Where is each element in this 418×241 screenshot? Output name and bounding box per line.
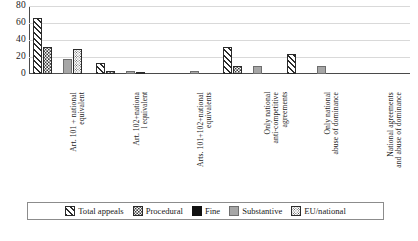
y-tick-0: 0 — [21, 69, 26, 79]
x-category: Only national abuse of dominance — [283, 92, 347, 192]
legend-item-procedural: Procedural — [133, 206, 183, 216]
bar-eu-national — [73, 49, 82, 75]
bar-group-bars — [93, 6, 157, 74]
y-axis: 0 20 40 60 80 — [0, 6, 28, 74]
x-category-label: Arts. 101+102+national equivalents — [196, 92, 213, 167]
bar-groups — [29, 6, 410, 74]
legend-item-total-appeals: Total appeals — [65, 206, 123, 216]
y-tick-80: 80 — [16, 1, 26, 11]
legend-item-substantive: Substantive — [229, 206, 282, 216]
x-category-label: National agreements and abuse of dominan… — [387, 92, 404, 168]
legend-label-fine: Fine — [205, 207, 220, 216]
chart-legend: Total appeals Procedural Fine Substantiv… — [27, 202, 384, 220]
bar-eu-national — [136, 72, 145, 74]
bar-group — [220, 6, 284, 74]
x-category: National agreements and abuse of dominan… — [347, 92, 411, 192]
x-category: Only national anti-competitive agreement… — [220, 92, 284, 192]
x-axis-category-labels: Art. 101 + national equivalentArt. 102+n… — [29, 92, 410, 192]
legend-swatch-eu-national-icon — [291, 206, 301, 216]
bar-substantive — [317, 66, 326, 75]
legend-label-substantive: Substantive — [242, 207, 282, 216]
bar-substantive — [253, 66, 262, 75]
bar-procedural — [43, 47, 52, 74]
x-category: Art. 102+nationa l equivalent — [93, 92, 157, 192]
bar-group-bars — [29, 6, 93, 74]
bar-group — [347, 6, 411, 74]
legend-label-procedural: Procedural — [146, 207, 183, 216]
bar-group — [156, 6, 220, 74]
bar-group-bars — [220, 6, 284, 74]
y-tick-20: 20 — [16, 52, 26, 62]
bar-group — [283, 6, 347, 74]
bar-total-appeals — [223, 47, 232, 74]
legend-swatch-substantive-icon — [229, 206, 239, 216]
x-category-label: Only national abuse of dominance — [323, 92, 340, 155]
x-category: Art. 101 + national equivalent — [29, 92, 93, 192]
bar-procedural — [106, 71, 115, 74]
bar-substantive — [190, 71, 199, 74]
x-category: Arts. 101+102+national equivalents — [156, 92, 220, 192]
y-tick-60: 60 — [16, 18, 26, 28]
legend-item-eu-national: EU/national — [291, 206, 346, 216]
bar-chart: 0 20 40 60 80 Art. 101 + national equiva… — [0, 0, 418, 241]
legend-swatch-procedural-icon — [133, 206, 143, 216]
bar-substantive — [63, 59, 72, 74]
legend-item-fine: Fine — [192, 206, 220, 216]
plot-area: 0 20 40 60 80 — [0, 6, 418, 90]
x-category-label: Art. 102+nationa l equivalent — [133, 92, 150, 146]
bar-group-bars — [347, 6, 411, 74]
bar-procedural — [233, 66, 242, 75]
bar-group — [93, 6, 157, 74]
bar-total-appeals — [33, 18, 42, 74]
legend-swatch-fine-icon — [192, 206, 202, 216]
legend-swatch-total-appeals-icon — [65, 206, 75, 216]
bar-group-bars — [156, 6, 220, 74]
y-tick-40: 40 — [16, 35, 26, 45]
x-category-label: Art. 101 + national equivalent — [69, 92, 86, 152]
legend-label-eu-national: EU/national — [304, 207, 346, 216]
bar-group — [29, 6, 93, 74]
bar-substantive — [126, 71, 135, 74]
bar-total-appeals — [287, 54, 296, 74]
bar-group-bars — [283, 6, 347, 74]
legend-label-total-appeals: Total appeals — [78, 207, 123, 216]
bar-total-appeals — [96, 63, 105, 74]
